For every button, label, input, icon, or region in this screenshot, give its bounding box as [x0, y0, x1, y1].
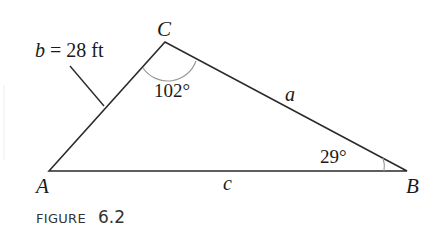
- figure-caption-word: FIGURE: [36, 211, 86, 226]
- triangle: [49, 42, 407, 171]
- vertex-label-c: C: [157, 17, 172, 41]
- vertex-label-b: B: [406, 174, 419, 198]
- angle-arc-c: [143, 61, 196, 81]
- angle-arc-b: [383, 158, 384, 171]
- leader-line-b: [70, 66, 104, 106]
- triangle-diagram: b= 28 ft C 102° a 29° A c B FIGURE 6.2: [0, 0, 444, 229]
- vertex-label-a: A: [34, 174, 49, 198]
- angle-label-b: 29°: [320, 146, 347, 167]
- side-label-c: c: [223, 172, 232, 194]
- figure-caption-number: 6.2: [98, 207, 125, 227]
- side-label-a: a: [285, 83, 295, 105]
- side-label-b: b= 28 ft: [35, 39, 104, 61]
- angle-label-c: 102°: [154, 80, 190, 101]
